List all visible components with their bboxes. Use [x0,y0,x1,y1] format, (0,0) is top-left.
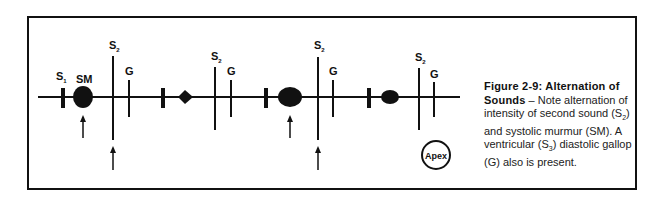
caption-dash: – [526,94,538,106]
s2-label: S2 [109,39,120,53]
arrow-up-icon [110,146,116,170]
s1-bar [264,88,268,108]
figure-caption: Figure 2-9: Alternation of Sounds – Note… [484,80,634,169]
arrow-up-icon [315,146,321,170]
s2-label: S2 [211,50,222,64]
s1-bar [367,88,371,108]
s2-label: S2 [415,51,426,65]
s1-label: S1 [56,70,67,84]
s2-label: S2 [314,39,325,53]
systolic-murmur-loud [73,86,93,108]
g-label: G [430,68,439,80]
systolic-murmur-soft [178,90,193,104]
systolic-murmur-loud [278,87,302,107]
g-label: G [227,65,236,77]
arrow-up-icon [80,115,86,138]
g-label: G [125,65,134,77]
systolic-murmur-soft [381,90,399,104]
apex-label: Apex [425,151,447,161]
sm-label: SM [76,73,93,85]
g-label: G [329,65,338,77]
s1-bar [161,88,165,108]
arrow-up-icon [287,115,293,138]
s1-bar [61,88,65,108]
